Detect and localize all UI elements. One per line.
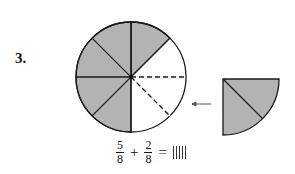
plus-sign: + — [130, 144, 138, 161]
quarter-wedge — [223, 79, 279, 135]
equation: 5 8 + 2 8 = — [116, 140, 187, 165]
answer-box[interactable] — [173, 146, 187, 159]
equals-sign: = — [158, 144, 166, 161]
fraction-2: 2 8 — [144, 140, 152, 165]
fraction-circle — [76, 22, 186, 132]
fraction-1: 5 8 — [116, 140, 124, 165]
left-arrow-icon — [192, 102, 211, 106]
